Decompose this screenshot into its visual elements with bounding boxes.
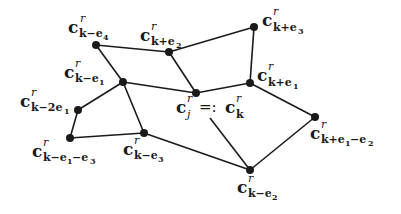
edge-k-e1-e3-to-k-e3: [70, 133, 144, 138]
svg-text:r: r: [187, 92, 193, 105]
svg-text:r: r: [31, 86, 37, 99]
svg-text:k−e: k−e: [79, 27, 103, 40]
edge-k+e1-e2-to-k-e2: [250, 117, 315, 170]
svg-text:r: r: [248, 172, 254, 185]
svg-text:1: 1: [293, 81, 299, 91]
svg-text:k−e: k−e: [43, 151, 67, 164]
svg-text:3: 3: [90, 156, 96, 166]
svg-text:k−e: k−e: [248, 187, 272, 200]
svg-text:r: r: [43, 136, 49, 149]
svg-text:3: 3: [298, 26, 304, 36]
svg-text:c: c: [64, 62, 74, 82]
svg-text:c: c: [20, 91, 30, 111]
lattice-graph-diagram: c r k−e 4 c r k+e 2 c r k+e 3 c r k−e 1 …: [0, 0, 401, 214]
svg-text:c: c: [257, 65, 267, 85]
edge-k+e2-to-k: [169, 52, 196, 93]
node-k-e1-e3: [66, 134, 74, 142]
svg-text:c: c: [310, 123, 320, 143]
svg-text:−e: −e: [72, 151, 88, 164]
svg-text:2: 2: [272, 192, 278, 202]
svg-text:k−e: k−e: [75, 72, 99, 85]
graph-edges: [70, 27, 315, 170]
edge-k-e3-to-k-e2: [144, 133, 250, 170]
label-k-minus-e2: c r k−e 2: [237, 172, 278, 202]
svg-text:c: c: [123, 139, 133, 159]
svg-text:k−2e: k−2e: [31, 101, 63, 114]
label-k-minus-e1: c r k−e 1: [64, 57, 105, 87]
node-k+e2: [165, 48, 173, 56]
node-k-e1: [119, 78, 127, 86]
svg-text:k: k: [236, 108, 244, 121]
edge-k+e3-to-k+e1: [250, 27, 254, 83]
svg-text:−e: −e: [350, 133, 366, 146]
svg-text:k+e: k+e: [321, 133, 345, 146]
svg-text:c: c: [225, 97, 235, 117]
svg-text:c: c: [140, 25, 150, 45]
label-k-plus-e1: c r k+e 1: [257, 60, 299, 91]
node-k+e3: [250, 23, 258, 31]
svg-text:r: r: [80, 12, 86, 25]
node-k-e3: [140, 129, 148, 137]
svg-text:r: r: [273, 5, 279, 18]
label-k-plus-e1-minus-e2: c r k+e 1 −e 2: [310, 118, 374, 148]
svg-text:c: c: [262, 10, 272, 30]
node-k+e1-e2: [311, 113, 319, 121]
label-k-plus-e3: c r k+e 3: [262, 5, 304, 36]
svg-text:1: 1: [99, 77, 105, 87]
svg-text:c: c: [32, 141, 42, 161]
svg-text:3: 3: [158, 154, 164, 164]
svg-text:r: r: [268, 60, 274, 73]
edge-k-2e1-to-k-e1-e3: [70, 110, 78, 138]
svg-text:r: r: [151, 20, 157, 33]
node-k: [192, 89, 200, 97]
svg-text:r: r: [75, 57, 81, 70]
label-k-minus-2e1: c r k−2e 1: [20, 86, 70, 116]
svg-text:2: 2: [368, 138, 374, 148]
node-k+e1: [246, 79, 254, 87]
svg-text:k+e: k+e: [268, 76, 292, 89]
label-k-minus-e4: c r k−e 4: [68, 12, 109, 42]
svg-text:k−e: k−e: [134, 149, 158, 162]
svg-text:4: 4: [103, 32, 109, 42]
svg-text:c: c: [176, 97, 186, 117]
label-k-minus-e1-minus-e3: c r k−e 1 −e 3: [32, 136, 96, 166]
svg-text:k+e: k+e: [273, 21, 297, 34]
svg-text:c: c: [237, 177, 247, 197]
svg-text:r: r: [321, 118, 327, 131]
svg-text:c: c: [68, 17, 78, 37]
edge-k-e3-to-k-e1: [123, 82, 144, 133]
edge-k-to-k+e1: [196, 83, 250, 93]
edge-k+e2-to-k+e3: [169, 27, 254, 52]
svg-text:r: r: [134, 134, 140, 147]
svg-text:r: r: [236, 92, 242, 105]
svg-text:1: 1: [64, 106, 70, 116]
svg-text:=:: =:: [199, 98, 217, 116]
label-k-plus-e2: c r k+e 2: [140, 20, 182, 50]
svg-text:k+e: k+e: [151, 35, 175, 48]
node-k-e4: [92, 41, 100, 49]
node-k-2e1: [74, 106, 82, 114]
edge-k-e1-to-k: [123, 82, 196, 93]
svg-text:2: 2: [176, 40, 182, 50]
label-center-cj-equals-ck: c r j =: c r k: [176, 92, 244, 121]
